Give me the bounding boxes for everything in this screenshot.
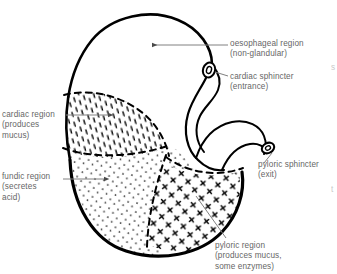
label-pyloric-region: pyloric region (produces mucus, some enz… <box>215 241 282 272</box>
pyloric-sphincter-ring <box>260 141 276 156</box>
edge-clipped-glyph-upper: s <box>331 63 337 73</box>
region-pyloric-fill <box>146 162 246 252</box>
duodenum-tube-upper <box>196 121 266 158</box>
region-fills <box>60 92 245 257</box>
label-cardiac-sphincter: cardiac sphincter (entrance) <box>230 72 294 93</box>
oesophagus-tube <box>197 66 220 152</box>
edge-clipped-glyph-lower: t <box>331 185 337 195</box>
label-fundic-region: fundic region (secretes acid) <box>2 172 50 203</box>
diagram-canvas: oesophageal region (non-glandular) cardi… <box>0 0 337 274</box>
label-cardiac-region: cardiac region (produces mucus) <box>2 110 55 141</box>
label-oesophageal-region: oesophageal region (non-glandular) <box>230 39 304 60</box>
label-pyloric-sphincter: pyloric sphincter (exit) <box>258 160 319 181</box>
cardiac-sphincter-ring <box>201 61 217 79</box>
